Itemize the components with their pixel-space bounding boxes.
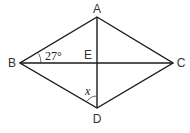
angle-label-27: 27°	[45, 49, 62, 63]
angle-label-x: x	[84, 84, 91, 98]
label-c: C	[177, 56, 186, 70]
label-d: D	[93, 112, 102, 126]
label-a: A	[93, 2, 101, 16]
rhombus-diagram: A B C D E 27° x	[0, 0, 190, 133]
label-e: E	[84, 48, 92, 62]
angle-arc-b	[39, 54, 41, 64]
label-b: B	[8, 56, 16, 70]
